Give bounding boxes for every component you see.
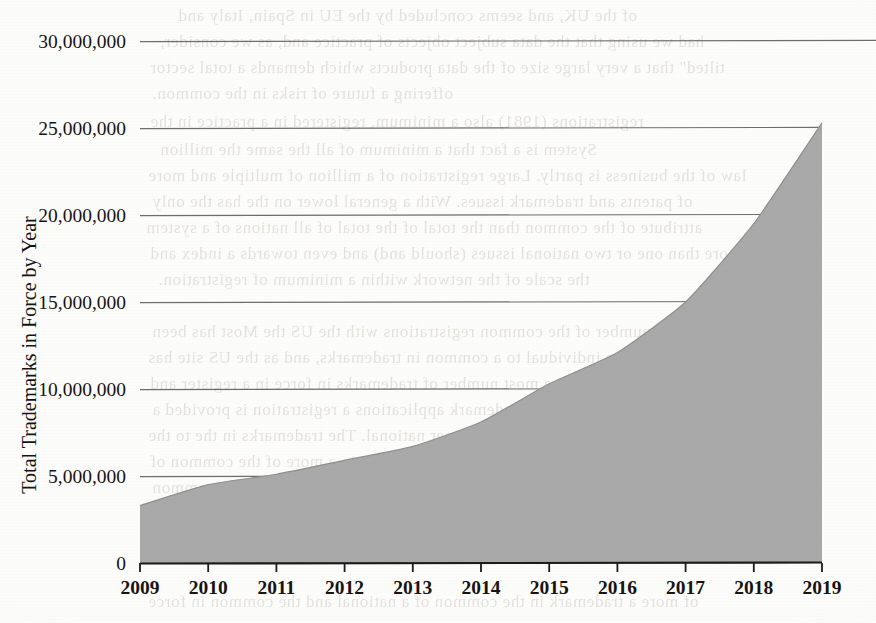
y-axis-title: Total Trademarks in Force by Year [18,216,41,494]
gridline [140,127,822,128]
x-axis-tick-label: 2014 [462,577,501,598]
y-axis-tick-labels: 05,000,00010,000,00015,000,00020,000,000… [38,31,126,574]
area-fill [140,123,822,563]
y-axis-tick-label: 10,000,000 [38,379,126,400]
gridline [140,214,822,215]
y-axis-tick-label: 0 [116,553,126,574]
y-axis-tick-label: 5,000,000 [48,466,126,487]
x-axis-tick-label: 2017 [666,577,705,598]
x-axis-tick-label: 2011 [257,577,295,598]
x-axis-tick-label: 2012 [325,577,364,598]
y-axis-tick-label: 25,000,000 [38,118,126,139]
series-total-trademarks-in-force [140,123,822,563]
area-chart-figure: Total Trademarks in Force by Year 05,000… [0,0,876,623]
x-axis-tick-label: 2010 [189,577,228,598]
x-axis-tick-label: 2013 [393,577,432,598]
y-axis-tick-label: 15,000,000 [38,292,126,313]
x-axis [140,563,822,573]
y-axis-tick-label: 30,000,000 [38,31,126,52]
y-axis-tick-label: 20,000,000 [38,205,126,226]
x-axis-tick-label: 2018 [734,577,773,598]
scanned-page: of the UK, and seems concluded by the EU… [0,0,876,623]
x-axis-tick-label: 2019 [803,577,842,598]
x-axis-tick-label: 2009 [121,577,160,598]
gridline [140,40,876,41]
x-axis-tick-label: 2016 [598,577,637,598]
x-axis-tick-label: 2015 [530,577,569,598]
chart-canvas: Total Trademarks in Force by Year 05,000… [0,0,876,623]
x-axis-tick-labels: 2009201020112012201320142015201620172018… [121,577,842,598]
